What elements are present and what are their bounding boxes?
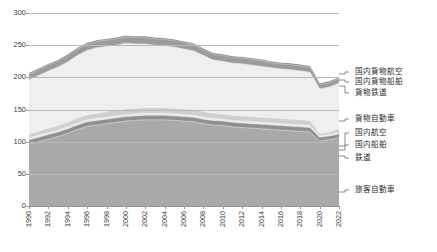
chart-figure: Gt-CO₂ 300250200150100500 19901992199419… <box>0 0 437 252</box>
x-axis-tickmark <box>262 206 263 209</box>
x-axis-tick-label: 1990 <box>25 211 32 227</box>
x-axis-tick-label: 2000 <box>122 211 129 227</box>
x-axis-tick-label: 2020 <box>316 211 323 227</box>
x-axis-tick-label: 2006 <box>180 211 187 227</box>
x-axis-tick-label: 2008 <box>199 211 206 227</box>
y-axis-tick-label: 50 <box>18 170 26 178</box>
legend-leader-line <box>339 190 349 192</box>
legend-leader-line <box>339 119 349 121</box>
x-axis-tickmark <box>29 206 30 209</box>
x-axis-tickmark <box>320 206 321 209</box>
y-axis-tickmark <box>26 13 29 14</box>
gridline <box>29 174 339 175</box>
legend-item-label[interactable]: 貨物鉄道 <box>355 89 387 97</box>
x-axis-tick-label: 2012 <box>238 211 245 227</box>
x-axis-tickmark <box>203 206 204 209</box>
y-axis-tick-label: 150 <box>13 106 26 114</box>
gridline <box>29 13 339 14</box>
legend-item-label[interactable]: 貨物自動車 <box>355 115 395 123</box>
x-axis-tickmark <box>184 206 185 209</box>
x-axis-tickmark <box>87 206 88 209</box>
y-axis-tickmark <box>26 142 29 143</box>
y-axis-tick-label: 200 <box>13 74 26 82</box>
plot-area: 300250200150100500 <box>29 13 339 206</box>
x-axis-tickmark <box>145 206 146 209</box>
x-axis-tick-label: 2010 <box>219 211 226 227</box>
legend-item-label[interactable]: 鉄道 <box>355 154 371 162</box>
x-axis-tickmark <box>48 206 49 209</box>
legend-item-label[interactable]: 国内船舶 <box>355 141 387 149</box>
area-band <box>29 120 339 206</box>
y-axis-tick-label: 0 <box>22 202 26 210</box>
y-axis-tickmark <box>26 174 29 175</box>
legend-item-label[interactable]: 国内貨物航空 <box>355 68 403 76</box>
legend-item-label[interactable]: 旅客自動車 <box>355 186 395 194</box>
x-axis-tickmark <box>223 206 224 209</box>
legend-leader-line <box>339 80 349 82</box>
legend-leader-line <box>339 86 349 93</box>
x-axis-tick-label: 2014 <box>258 211 265 227</box>
x-axis-tickmark <box>300 206 301 209</box>
x-axis-tick-label: 2022 <box>335 211 342 227</box>
legend-leader-line <box>339 145 349 150</box>
x-axis-tickmark <box>126 206 127 209</box>
gridline <box>29 45 339 46</box>
legend-leader-line <box>339 72 349 74</box>
y-axis-tick-label: 100 <box>13 138 26 146</box>
gridline <box>29 77 339 78</box>
x-axis-tick-label: 2002 <box>141 211 148 227</box>
x-axis-tick-label: 2018 <box>296 211 303 227</box>
x-axis-tickmark <box>281 206 282 209</box>
legend-leader-line <box>339 156 349 158</box>
x-axis-tickmark <box>242 206 243 209</box>
x-axis-tickmark <box>165 206 166 209</box>
legend-item-label[interactable]: 国内貨物船舶 <box>355 78 403 86</box>
x-axis-tick-label: 1994 <box>64 211 71 227</box>
y-axis-tick-label: 300 <box>13 9 26 17</box>
legend-item-label[interactable]: 国内航空 <box>355 129 387 137</box>
x-axis-tickmark <box>68 206 69 209</box>
legend-leader-line <box>339 133 349 146</box>
x-axis-tick-label: 1996 <box>83 211 90 227</box>
x-axis-tick-label: 1992 <box>44 211 51 227</box>
x-axis-tick-label: 1998 <box>103 211 110 227</box>
gridline <box>29 142 339 143</box>
x-axis-tick-label: 2004 <box>161 211 168 227</box>
x-axis-tickmark <box>339 206 340 209</box>
y-axis-tick-label: 250 <box>13 41 26 49</box>
x-axis-tickmark <box>107 206 108 209</box>
x-axis-tick-label: 2016 <box>277 211 284 227</box>
y-axis-tickmark <box>26 77 29 78</box>
y-axis-tickmark <box>26 110 29 111</box>
gridline <box>29 110 339 111</box>
y-axis-tickmark <box>26 45 29 46</box>
